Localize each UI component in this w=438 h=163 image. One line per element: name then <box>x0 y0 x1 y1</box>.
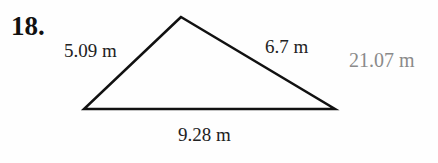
side-label-base: 9.28 m <box>178 124 231 146</box>
triangle <box>84 17 335 109</box>
problem-figure: 18. 5.09 m 6.7 m 9.28 m 21.07 m <box>0 0 438 163</box>
perimeter-answer: 21.07 m <box>349 49 415 72</box>
side-label-right: 6.7 m <box>265 36 308 58</box>
side-label-left: 5.09 m <box>64 40 117 62</box>
